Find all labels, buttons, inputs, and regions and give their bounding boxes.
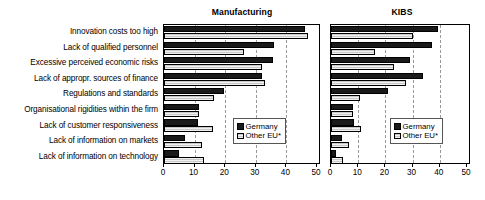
bar-row (331, 25, 469, 41)
bar-row (164, 149, 319, 164)
bar-row (164, 56, 319, 72)
category-label: Excessive perceived economic risks (0, 55, 161, 71)
bar-other-eu (331, 80, 406, 86)
x-axis-tick-label: 0 (161, 168, 166, 177)
category-label: Organisational rigidities within the fir… (0, 102, 161, 118)
bar-other-eu (164, 111, 199, 117)
bar-germany (331, 150, 336, 156)
bar-other-eu (164, 126, 213, 132)
category-label: Lack of information on technology (0, 148, 161, 164)
legend: Germany Other EU* (390, 118, 443, 144)
bar-germany (331, 104, 353, 110)
bar-germany (331, 42, 432, 48)
x-axis-tick (466, 164, 467, 167)
x-axis-tick-label: 40 (434, 168, 443, 177)
x-axis-tick (285, 164, 286, 167)
legend-label-germany: Germany (403, 122, 435, 132)
legend-item-germany: Germany (237, 122, 281, 132)
legend: Germany Other EU* (233, 118, 286, 144)
category-label: Regulations and standards (0, 86, 161, 102)
bar-other-eu (331, 64, 394, 70)
x-axis-tick (224, 164, 225, 167)
chart-figure: Innovation costs too highLack of qualifi… (0, 0, 485, 200)
legend-swatch-other-eu (237, 133, 244, 140)
bar-germany (164, 135, 185, 141)
legend-label-germany: Germany (246, 122, 278, 132)
bar-germany (164, 26, 305, 32)
bar-other-eu (331, 49, 375, 55)
legend-label-other-eu: Other EU* (403, 131, 439, 141)
bar-row (331, 41, 469, 57)
legend-label-other-eu: Other EU* (246, 131, 282, 141)
bar-other-eu (331, 111, 353, 117)
bar-row (164, 41, 319, 57)
x-axis-tick (330, 164, 331, 167)
bar-row (331, 72, 469, 88)
category-label-column: Innovation costs too highLack of qualifi… (0, 24, 161, 164)
x-axis-tick-label: 20 (380, 168, 389, 177)
bar-other-eu (331, 33, 413, 39)
legend-swatch-germany (394, 123, 401, 130)
bar-row (331, 149, 469, 164)
panel-kibs: KIBS 01020304050 Germany Other EU* (328, 0, 476, 200)
bar-other-eu (164, 49, 244, 55)
bar-row (331, 56, 469, 72)
bar-germany (331, 26, 438, 32)
panel-manufacturing: Manufacturing 01020304050 Germany Other … (161, 0, 323, 200)
x-axis-tick (357, 164, 358, 167)
bar-row (164, 72, 319, 88)
x-axis-tick (194, 164, 195, 167)
x-axis-tick (255, 164, 256, 167)
bar-germany (331, 119, 354, 125)
x-axis-tick (316, 164, 317, 167)
bar-row (164, 25, 319, 41)
bar-germany (164, 73, 262, 79)
bar-germany (164, 119, 198, 125)
bar-other-eu (164, 80, 265, 86)
bar-germany (331, 73, 423, 79)
legend-item-other-eu: Other EU* (394, 131, 438, 141)
category-label: Lack of qualified personnel (0, 40, 161, 56)
bar-other-eu (164, 95, 214, 101)
bar-germany (331, 135, 342, 141)
bar-row (164, 103, 319, 119)
x-axis-tick-label: 50 (461, 168, 470, 177)
x-axis: 01020304050 (330, 164, 470, 184)
x-axis-tick (384, 164, 385, 167)
bar-row (331, 87, 469, 103)
x-axis-tick (412, 164, 413, 167)
bar-other-eu (164, 142, 202, 148)
bar-germany (164, 42, 274, 48)
bar-other-eu (164, 157, 204, 163)
bar-other-eu (331, 126, 361, 132)
legend-swatch-germany (237, 123, 244, 130)
bar-other-eu (164, 64, 262, 70)
bar-row (331, 103, 469, 119)
x-axis-tick-label: 10 (353, 168, 362, 177)
category-label: Lack of information on markets (0, 133, 161, 149)
bar-row (164, 87, 319, 103)
bar-germany (164, 150, 179, 156)
legend-item-other-eu: Other EU* (237, 131, 281, 141)
bar-other-eu (164, 33, 308, 39)
x-axis-tick-label: 10 (189, 168, 198, 177)
bar-germany (331, 57, 410, 63)
bar-other-eu (331, 95, 360, 101)
panel-title: KIBS (328, 7, 476, 17)
x-axis-tick-label: 40 (281, 168, 290, 177)
bar-other-eu (331, 157, 343, 163)
x-axis-tick-label: 0 (328, 168, 333, 177)
panel-title: Manufacturing (161, 7, 323, 17)
category-label: Lack of customer responsiveness (0, 117, 161, 133)
x-axis-tick (163, 164, 164, 167)
bar-germany (331, 88, 388, 94)
x-axis-tick-label: 30 (250, 168, 259, 177)
legend-item-germany: Germany (394, 122, 438, 132)
x-axis-tick-label: 20 (220, 168, 229, 177)
bar-germany (164, 57, 273, 63)
x-axis-tick-label: 50 (311, 168, 320, 177)
bar-other-eu (331, 142, 349, 148)
x-axis-tick-label: 30 (407, 168, 416, 177)
category-label: Innovation costs too high (0, 24, 161, 40)
bar-germany (164, 104, 199, 110)
